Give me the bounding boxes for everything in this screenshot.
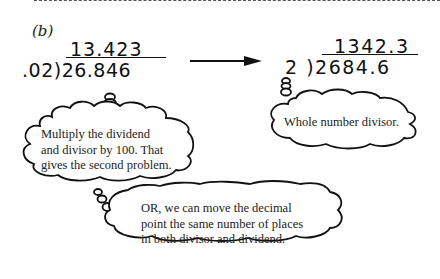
bubble-text-whole-divisor: Whole number divisor. [284,115,434,131]
bubble-line: OR, we can move the decimal [141,201,361,217]
bubble-line: Multiply the dividend [41,127,191,143]
thought-bubble-whole-divisor [271,78,416,149]
arrow-right-icon [190,56,262,66]
bubble-line: Whole number divisor. [284,115,434,131]
bubble-line: and divisor by 100. That [41,143,191,159]
bubble-line: point the same number of places [141,217,361,233]
bubble-text-move-decimal: OR, we can move the decimal point the sa… [141,201,361,248]
bubble-line: gives the second problem. [41,158,191,174]
bubble-line: in both divisor and dividend. [141,232,361,248]
bubble-text-multiply: Multiply the dividend and divisor by 100… [41,127,191,174]
